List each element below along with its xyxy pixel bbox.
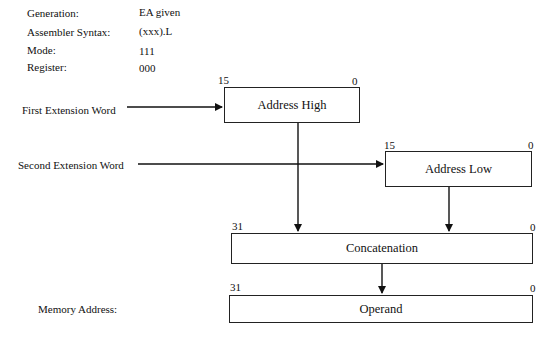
concatenation-lsb: 0 <box>530 222 536 233</box>
concatenation-label: Concatenation <box>346 241 418 256</box>
address-high-msb: 15 <box>218 75 229 86</box>
address-low-lsb: 0 <box>528 140 534 151</box>
address-high-box: Address High <box>224 87 360 123</box>
address-high-label: Address High <box>257 98 326 113</box>
address-low-msb: 15 <box>384 140 395 151</box>
operand-msb: 31 <box>230 282 241 293</box>
concatenation-msb: 31 <box>232 221 243 232</box>
address-low-box: Address Low <box>385 151 532 187</box>
address-high-lsb: 0 <box>352 76 358 87</box>
operand-label: Operand <box>359 302 402 317</box>
concatenation-box: Concatenation <box>231 233 533 264</box>
address-low-label: Address Low <box>425 162 492 177</box>
operand-box: Operand <box>229 295 533 323</box>
operand-lsb: 0 <box>530 283 536 294</box>
